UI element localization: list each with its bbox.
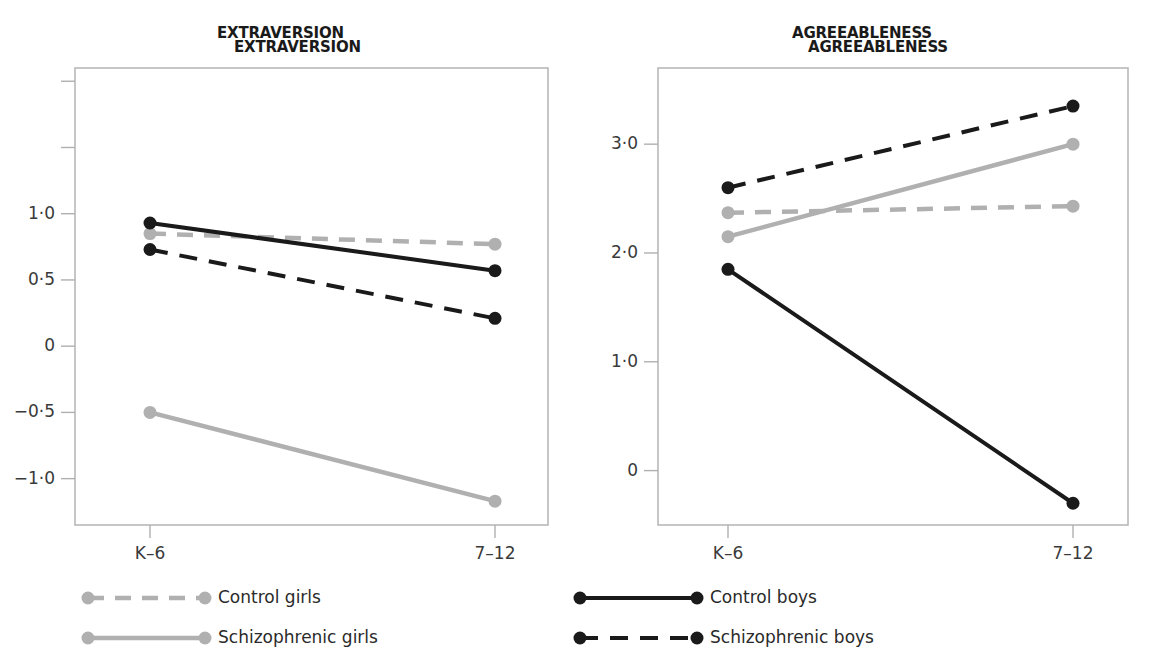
y-axis-tick-label: 1·0 xyxy=(578,351,638,371)
legend-label-control-boys: Control boys xyxy=(710,587,817,607)
legend-label-schizophrenic-girls: Schizophrenic girls xyxy=(218,627,378,647)
figure-root: EXTRAVERSION EXTRAVERSION 1·00·50−0·5−1·… xyxy=(0,0,1162,670)
plot-area-extraversion xyxy=(0,0,580,545)
y-axis-tick-label: −0·5 xyxy=(0,401,55,421)
y-axis-tick-label: 1·0 xyxy=(0,203,55,223)
chart-panel-extraversion: EXTRAVERSION EXTRAVERSION 1·00·50−0·5−1·… xyxy=(0,0,580,545)
legend-label-schizophrenic-boys: Schizophrenic boys xyxy=(710,627,874,647)
y-axis-tick-label: 3·0 xyxy=(578,133,638,153)
plot-area-agreeableness xyxy=(580,0,1162,545)
y-axis-tick-label: 2·0 xyxy=(578,242,638,262)
y-axis-tick-label: −1·0 xyxy=(0,468,55,488)
y-axis-tick-label: 0 xyxy=(0,335,55,355)
chart-legend: Control girls Schizophrenic girls Contro… xyxy=(0,545,1162,670)
y-axis-tick-label: 0 xyxy=(578,460,638,480)
y-axis-tick-label: 0·5 xyxy=(0,269,55,289)
chart-panel-agreeableness: AGREEABLENESS AGREEABLENESS 3·02·01·00K–… xyxy=(580,0,1162,545)
legend-label-control-girls: Control girls xyxy=(218,587,321,607)
legend-swatches xyxy=(0,545,1162,670)
